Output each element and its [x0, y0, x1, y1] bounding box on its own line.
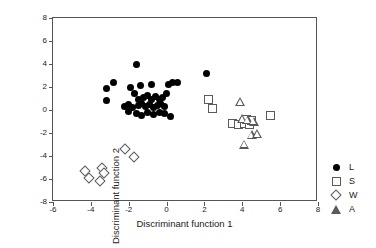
data-point-l: [110, 79, 117, 86]
y-axis-title: Discriminant function 2: [110, 104, 122, 248]
x-axis-title: Discriminant function 1: [52, 218, 317, 229]
data-point-a: [235, 97, 245, 106]
y-axis-tick-label: 6: [43, 37, 47, 45]
y-axis-tick: [49, 64, 53, 65]
open-triangle-icon: [330, 203, 342, 215]
y-axis-tick-label: 8: [43, 14, 47, 22]
legend-item-label: A: [349, 205, 355, 214]
y-axis-tick: [49, 87, 53, 88]
x-axis-tick-label: -6: [49, 206, 56, 214]
legend-item-s: S: [330, 174, 358, 188]
x-axis-tick-label: 4: [240, 206, 244, 214]
x-axis-tick-label: 2: [202, 206, 206, 214]
x-axis-tick-label: -2: [125, 206, 132, 214]
x-axis-tick-label: 8: [316, 206, 320, 214]
data-point-l: [167, 113, 174, 120]
legend-item-label: S: [349, 177, 355, 186]
data-point-l: [163, 90, 170, 97]
data-point-l: [148, 81, 155, 88]
data-point-l: [161, 103, 168, 110]
y-axis-tick: [49, 18, 53, 19]
y-axis-tick: [49, 156, 53, 157]
data-point-a: [249, 117, 259, 126]
legend-item-label: W: [349, 191, 358, 200]
legend-item-label: L: [349, 163, 354, 172]
y-axis-tick-label: -6: [40, 175, 47, 183]
plot-area: -8-6-4-202468-6-4-202468: [52, 17, 317, 201]
legend: LSWA: [330, 160, 358, 216]
data-point-l: [103, 85, 110, 92]
data-point-s: [208, 104, 217, 113]
legend-item-l: L: [330, 160, 358, 174]
y-axis-tick: [49, 110, 53, 111]
legend-item-w: W: [330, 188, 358, 202]
data-point-s: [204, 95, 213, 104]
data-point-a: [252, 129, 262, 138]
y-axis-tick: [49, 41, 53, 42]
data-point-l: [137, 82, 144, 89]
data-points-layer: [53, 18, 316, 200]
y-axis-tick-label: -2: [40, 129, 47, 137]
data-point-s: [266, 111, 275, 120]
filled-circle-icon: [330, 161, 342, 173]
data-point-l: [203, 70, 210, 77]
y-axis-tick: [49, 179, 53, 180]
open-square-icon: [330, 175, 342, 187]
legend-item-a: A: [330, 202, 358, 216]
data-point-l: [125, 108, 132, 115]
data-point-w: [129, 151, 140, 162]
y-axis-tick-label: -8: [40, 198, 47, 206]
data-point-a: [239, 140, 249, 149]
x-axis-tick-label: -4: [87, 206, 94, 214]
y-axis-tick-label: -4: [40, 152, 47, 160]
y-axis-tick-label: 2: [43, 83, 47, 91]
y-axis-tick-label: 0: [43, 106, 47, 114]
open-diamond-icon: [330, 189, 342, 201]
y-axis-tick-label: 4: [43, 60, 47, 68]
x-axis-tick-label: 6: [278, 206, 282, 214]
data-point-l: [103, 97, 110, 104]
data-point-l: [133, 61, 140, 68]
data-point-l: [174, 79, 181, 86]
y-axis-tick: [49, 133, 53, 134]
x-axis-tick-label: 0: [164, 206, 168, 214]
